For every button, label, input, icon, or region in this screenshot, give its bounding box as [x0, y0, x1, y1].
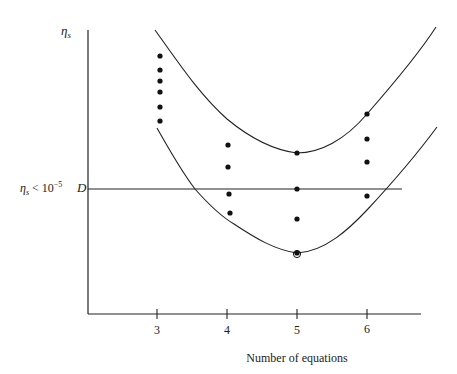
point-5-3 [294, 216, 299, 221]
x-axis-label: Number of equations [246, 351, 348, 365]
y-axis-label: ηs [61, 23, 71, 40]
upper-bound-curve [155, 27, 436, 153]
point-4-1 [225, 142, 230, 147]
threshold-annotation: ηs < 10−5 [20, 180, 62, 197]
point-5-2 [294, 186, 299, 191]
point-3-6 [157, 118, 162, 123]
point-3-3 [157, 78, 162, 83]
point-3-4 [157, 89, 162, 94]
point-4-2 [225, 164, 230, 169]
x-tick-label-5: 5 [294, 323, 300, 337]
point-3-1 [157, 53, 162, 58]
x-tick-label-3: 3 [154, 323, 160, 337]
figure-canvas: ηs ηs < 10−5 D 3 4 5 6 Number of equatio… [0, 0, 457, 374]
point-6-4 [364, 193, 369, 198]
x-tick-label-4: 4 [224, 323, 230, 337]
point-3-2 [157, 67, 162, 72]
point-4-3 [226, 191, 231, 196]
point-4-4 [227, 210, 232, 215]
point-6-1 [364, 111, 369, 116]
point-5-1 [294, 150, 299, 155]
threshold-line-label: D [76, 180, 87, 195]
point-6-3 [364, 159, 369, 164]
point-6-2 [364, 136, 369, 141]
point-3-5 [157, 104, 162, 109]
x-tick-label-6: 6 [364, 322, 370, 336]
data-points [157, 53, 369, 255]
